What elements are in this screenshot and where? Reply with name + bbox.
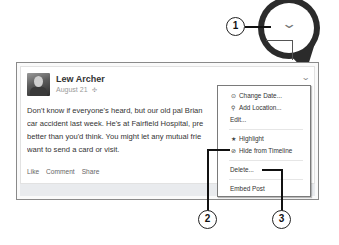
menu-item-highlight[interactable]: ★Highlight	[231, 135, 264, 142]
author-name[interactable]: Lew Archer	[56, 74, 105, 84]
menu-item-label: Change Date...	[239, 92, 282, 99]
post-body-line: car accident last week. He's at Fairfiel…	[27, 117, 215, 130]
menu-divider	[229, 179, 303, 180]
star-icon: ★	[231, 136, 239, 142]
menu-item-label: Add Location...	[239, 104, 282, 111]
menu-item-hide-from-timeline[interactable]: ⊘Hide from Timeline	[231, 147, 292, 154]
callout-1: 1	[226, 17, 245, 36]
callout-3: 3	[272, 210, 291, 229]
post-body-line: better than you'd think. You might let a…	[27, 130, 215, 143]
post-actions: LikeCommentShare	[27, 168, 106, 175]
post-date[interactable]: August 21✣	[56, 86, 97, 93]
post-options-chevron-down-icon[interactable]: ⌄	[301, 73, 311, 82]
menu-divider	[229, 160, 303, 161]
share-button[interactable]: Share	[82, 168, 100, 175]
menu-item-add-location[interactable]: ⚲Add Location...	[231, 104, 282, 111]
post-options-menu: ⊙Change Date... ⚲Add Location... Edit...…	[217, 85, 311, 197]
post-body-line: Don't know if everyone's heard, but our …	[27, 104, 215, 117]
magnified-menu-edge	[266, 40, 293, 60]
callout-2: 2	[198, 210, 217, 229]
menu-divider	[229, 129, 303, 130]
menu-item-change-date[interactable]: ⊙Change Date...	[231, 92, 282, 99]
menu-item-label: Delete...	[230, 166, 254, 173]
clock-icon: ⊙	[231, 93, 239, 99]
post-body: Don't know if everyone's heard, but our …	[27, 104, 215, 156]
callout-1-leader	[245, 26, 271, 28]
menu-item-embed-post[interactable]: Embed Post	[230, 185, 265, 192]
post-body-line: want to send a card or visit.	[27, 143, 215, 156]
location-pin-icon: ⚲	[231, 105, 239, 111]
menu-item-label: Embed Post	[230, 185, 265, 192]
post-date-text[interactable]: August 21	[56, 86, 88, 93]
avatar[interactable]	[27, 73, 50, 96]
globe-icon[interactable]: ✣	[92, 87, 97, 93]
callout-3-leader	[281, 169, 283, 211]
menu-item-label: Highlight	[239, 135, 264, 142]
menu-item-label: Edit...	[230, 116, 246, 123]
magnified-chevron-down-icon: ⌄	[281, 16, 298, 31]
menu-item-delete[interactable]: Delete...	[230, 166, 254, 173]
comment-button[interactable]: Comment	[46, 168, 75, 175]
menu-item-edit[interactable]: Edit...	[230, 116, 246, 123]
hide-icon: ⊘	[231, 148, 239, 154]
callout-2-leader	[207, 149, 230, 151]
menu-item-label: Hide from Timeline	[239, 147, 292, 154]
callout-2-leader	[207, 149, 209, 211]
like-button[interactable]: Like	[27, 168, 39, 175]
callout-3-leader	[262, 169, 282, 171]
